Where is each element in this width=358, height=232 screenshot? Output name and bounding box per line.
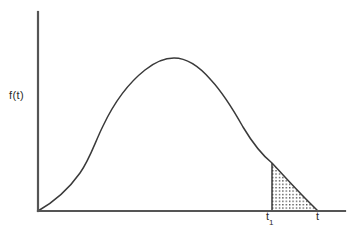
figure-container: f(t) t1 t [0, 0, 358, 232]
x-tick-label-t: t [316, 211, 319, 222]
density-plot-svg [0, 0, 358, 232]
y-axis-label: f(t) [9, 90, 24, 101]
x-tick-label-t1: t1 [266, 211, 274, 225]
x-tick-label-t1-subscript: 1 [269, 218, 273, 227]
